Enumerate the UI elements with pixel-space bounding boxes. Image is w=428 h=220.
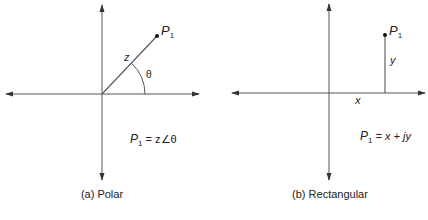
diagram-canvas: P1 z θ P1 = z∠θ (a) Polar P1 y x P1 = x … <box>0 0 428 220</box>
rectangular-panel: P1 y x P1 = x + jy (b) Rectangular <box>232 4 425 200</box>
polar-angle-label: θ <box>146 69 152 80</box>
rect-point-label: P1 <box>389 23 403 40</box>
polar-point-label: P1 <box>161 23 175 40</box>
polar-point-dot <box>155 34 159 38</box>
rect-y-label: y <box>389 54 397 66</box>
rect-caption: (b) Rectangular <box>292 188 368 200</box>
polar-vector <box>102 36 157 94</box>
polar-caption: (a) Polar <box>81 188 124 200</box>
rect-point-dot <box>383 33 387 37</box>
polar-panel: P1 z θ P1 = z∠θ (a) Polar <box>6 5 199 200</box>
polar-angle-arc <box>132 63 145 94</box>
rect-formula: P1 = x + jy <box>360 129 412 145</box>
rect-x-label: x <box>354 94 361 106</box>
polar-formula: P1 = z∠θ <box>130 132 177 148</box>
polar-magnitude-label: z <box>123 51 130 63</box>
